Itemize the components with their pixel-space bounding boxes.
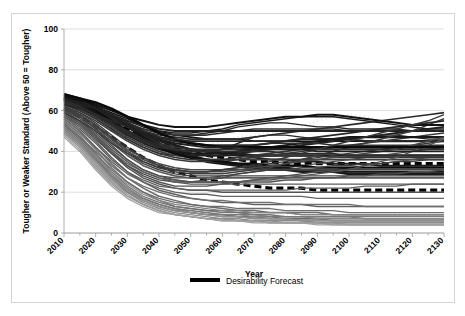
x-tick-label: 2040	[140, 235, 161, 256]
y-tick-label: 60	[49, 106, 59, 116]
line-chart: 020406080100 201020202030204020502060207…	[12, 14, 456, 304]
x-tick-label: 2070	[235, 235, 256, 256]
x-tick-label: 2050	[172, 235, 193, 256]
x-tick-labels: 2010202020302040205020602070208020902100…	[45, 235, 446, 256]
chart-container: 020406080100 201020202030204020502060207…	[11, 13, 455, 303]
x-tick-label: 2130	[425, 235, 446, 256]
y-axis-title: Tougher or Weaker Standard (Above 50 = T…	[21, 28, 31, 233]
y-tick-label: 80	[49, 65, 59, 75]
legend-label: Desirability Forecast	[226, 276, 304, 286]
x-tick-label: 2120	[393, 235, 414, 256]
x-tick-label: 2010	[45, 235, 66, 256]
x-tick-label: 2020	[77, 235, 98, 256]
y-tick-label: 100	[44, 24, 58, 34]
x-tick-label: 2030	[108, 235, 129, 256]
x-tick-label: 2090	[298, 235, 319, 256]
x-tick-label: 2060	[203, 235, 224, 256]
y-tick-labels: 020406080100	[44, 24, 58, 238]
y-tick-label: 40	[49, 146, 59, 156]
plot-series-group	[64, 94, 444, 225]
x-tick-label: 2100	[330, 235, 351, 256]
y-tick-label: 20	[49, 187, 59, 197]
chart-legend: Desirability Forecast	[190, 276, 304, 286]
x-tick-label: 2110	[362, 235, 382, 255]
x-tick-label: 2080	[267, 235, 288, 256]
